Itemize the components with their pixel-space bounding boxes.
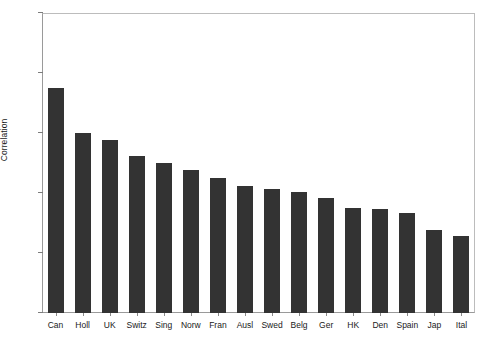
x-tick-mark <box>245 313 246 316</box>
x-tick-label: Belg <box>291 320 308 330</box>
bar <box>210 178 226 313</box>
x-tick-label: Den <box>372 320 388 330</box>
x-tick-label: Holl <box>75 320 90 330</box>
x-tick-label: Switz <box>127 320 147 330</box>
bar <box>156 163 172 313</box>
bar <box>237 186 253 313</box>
x-tick-label: Ital <box>456 320 467 330</box>
bar <box>102 140 118 313</box>
bar <box>48 88 64 313</box>
x-tick-label: HK <box>347 320 359 330</box>
x-tick-label: Can <box>48 320 64 330</box>
x-tick-mark <box>83 313 84 316</box>
x-tick-label: Norw <box>181 320 201 330</box>
x-tick-mark <box>218 313 219 316</box>
bars-layer <box>42 13 475 313</box>
x-tick-label: Ausl <box>237 320 254 330</box>
bar <box>183 170 199 313</box>
x-tick-label: Spain <box>396 320 418 330</box>
x-axis: CanHollUKSwitzSingNorwFranAuslSwedBelgGe… <box>42 316 475 338</box>
x-tick-mark <box>353 313 354 316</box>
x-tick-mark <box>191 313 192 316</box>
x-tick-mark <box>407 313 408 316</box>
x-tick-mark <box>326 313 327 316</box>
bar <box>318 198 334 313</box>
bar-chart: Correlation 00.20.40.60.81 CanHollUKSwit… <box>0 0 488 344</box>
x-tick-label: Swed <box>261 320 282 330</box>
x-tick-mark <box>164 313 165 316</box>
bar <box>345 208 361 313</box>
x-tick-mark <box>461 313 462 316</box>
x-tick-mark <box>56 313 57 316</box>
bar <box>426 230 442 313</box>
bar <box>453 236 469 313</box>
bar <box>264 189 280 313</box>
x-tick-mark <box>272 313 273 316</box>
x-tick-mark <box>299 313 300 316</box>
x-tick-label: Ger <box>319 320 333 330</box>
x-tick-label: Fran <box>209 320 226 330</box>
bar <box>291 192 307 313</box>
x-tick-label: Jap <box>428 320 442 330</box>
bar <box>372 209 388 313</box>
bar <box>129 156 145 313</box>
x-tick-mark <box>137 313 138 316</box>
bar <box>75 133 91 313</box>
x-tick-mark <box>434 313 435 316</box>
x-tick-label: UK <box>104 320 116 330</box>
bar <box>399 213 415 313</box>
x-tick-mark <box>380 313 381 316</box>
x-tick-label: Sing <box>155 320 172 330</box>
y-axis-title: Correlation <box>0 80 9 200</box>
x-tick-mark <box>110 313 111 316</box>
